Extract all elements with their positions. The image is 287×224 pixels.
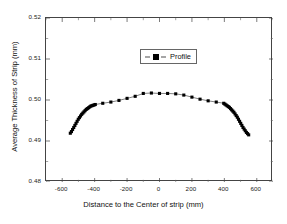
x-tick-label: 600 [242, 185, 270, 192]
x-tick-label: 400 [209, 185, 237, 192]
y-axis-major-ticks [46, 18, 273, 182]
legend-marker-icon [145, 53, 167, 61]
plot-svg [46, 18, 273, 182]
y-tick-label: 0.49 [17, 136, 41, 143]
x-tick-label: 200 [177, 185, 205, 192]
x-tick-label: -600 [47, 185, 75, 192]
y-axis-title: Average Thickness of Strip (mm) [10, 17, 19, 177]
y-tick-label: 0.50 [17, 95, 41, 102]
chart-legend[interactable]: Profile [140, 49, 197, 64]
x-tick-label: 0 [145, 185, 173, 192]
y-tick-label: 0.51 [17, 54, 41, 61]
x-tick-label: -200 [112, 185, 140, 192]
series-markers-profile [69, 91, 250, 136]
y-tick-label: 0.48 [17, 177, 41, 184]
plot-area [45, 17, 272, 181]
series-line-profile [70, 93, 248, 135]
x-axis-major-ticks [62, 18, 257, 182]
chart-figure: 0.480.490.500.510.52 -600-400-2000200400… [0, 0, 287, 224]
legend-label-profile: Profile [170, 52, 191, 61]
x-axis-minor-ticks [46, 18, 273, 182]
y-tick-label: 0.52 [17, 13, 41, 20]
x-tick-label: -400 [80, 185, 108, 192]
x-axis-title: Distance to the Center of strip (mm) [0, 200, 287, 209]
